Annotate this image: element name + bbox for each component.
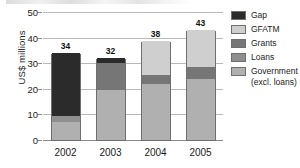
x-tick-label-2002: 2002 xyxy=(51,147,81,158)
y-tick-mark-20 xyxy=(38,89,42,90)
bar-stack-2002 xyxy=(51,54,81,141)
x-tick-label-2003: 2003 xyxy=(96,147,126,158)
y-tick-mark-10 xyxy=(38,114,42,115)
legend-swatch-gap xyxy=(231,11,246,20)
legend-item-gap[interactable]: Gap xyxy=(231,10,299,21)
legend-swatch-loans xyxy=(231,53,246,62)
legend-label-government: Government(excl. loans) xyxy=(251,66,298,87)
bar-segment-2004-government-excl-loans xyxy=(142,84,170,140)
legend-label-grants: Grants xyxy=(251,38,277,49)
bar-segment-2003-grants xyxy=(97,63,125,90)
y-tick-label-10: 10 xyxy=(27,109,38,120)
bar-segment-2002-government-excl-loans xyxy=(52,122,80,140)
legend-item-gfatm[interactable]: GFATM xyxy=(231,24,299,35)
bar-group-2004: 382004 xyxy=(141,13,171,141)
bar-total-label-2004: 38 xyxy=(141,29,171,39)
bar-segment-2005-gfatm xyxy=(187,30,215,67)
bar-segment-2002-gap xyxy=(52,53,80,116)
legend-swatch-gfatm xyxy=(231,25,246,34)
chart-legend: GapGFATMGrantsLoansGovernment(excl. loan… xyxy=(231,10,299,91)
y-tick-mark-30 xyxy=(38,63,42,64)
cropped-caption-sliver xyxy=(6,0,196,4)
bar-stack-2003 xyxy=(96,59,126,141)
bar-total-label-2003: 32 xyxy=(96,46,126,56)
bar-segment-2005-government-excl-loans xyxy=(187,79,215,140)
bar-stack-2005 xyxy=(186,31,216,141)
bar-group-2002: 342002 xyxy=(51,13,81,141)
y-tick-mark-0 xyxy=(38,140,42,141)
plot-area: 01020304050 342002322003382004432005 xyxy=(43,13,223,141)
bar-group-2003: 322003 xyxy=(96,13,126,141)
bar-segment-2003-government-excl-loans xyxy=(97,90,125,140)
bar-segment-2002-loans xyxy=(52,116,80,122)
y-tick-label-50: 50 xyxy=(27,7,38,18)
bar-stack-2004 xyxy=(141,42,171,141)
y-tick-mark-40 xyxy=(38,38,42,39)
bar-total-label-2005: 43 xyxy=(186,18,216,28)
legend-label-gfatm: GFATM xyxy=(251,24,280,35)
legend-item-loans[interactable]: Loans xyxy=(231,52,299,63)
bars-layer: 342002322003382004432005 xyxy=(43,13,223,141)
bar-group-2005: 432005 xyxy=(186,13,216,141)
y-tick-label-30: 30 xyxy=(27,58,38,69)
bar-segment-2005-grants xyxy=(187,67,215,79)
legend-swatch-grants xyxy=(231,39,246,48)
y-axis-label: US$ millions xyxy=(16,15,27,101)
y-tick-label-20: 20 xyxy=(27,83,38,94)
x-tick-label-2004: 2004 xyxy=(141,147,171,158)
legend-item-grants[interactable]: Grants xyxy=(231,38,299,49)
bar-segment-2004-gfatm xyxy=(142,41,170,74)
y-tick-label-40: 40 xyxy=(27,32,38,43)
bar-total-label-2002: 34 xyxy=(51,41,81,51)
x-tick-label-2005: 2005 xyxy=(186,147,216,158)
legend-label-gap: Gap xyxy=(251,10,267,21)
bar-segment-2003-gap xyxy=(97,58,125,63)
legend-item-government[interactable]: Government(excl. loans) xyxy=(231,66,299,87)
stacked-bar-chart: US$ millions 01020304050 342002322003382… xyxy=(0,0,300,168)
bar-segment-2004-grants xyxy=(142,75,170,84)
legend-swatch-government xyxy=(231,67,246,76)
y-tick-mark-50 xyxy=(38,12,42,13)
legend-sublabel-government: (excl. loans) xyxy=(251,77,298,88)
legend-label-loans: Loans xyxy=(251,52,274,63)
